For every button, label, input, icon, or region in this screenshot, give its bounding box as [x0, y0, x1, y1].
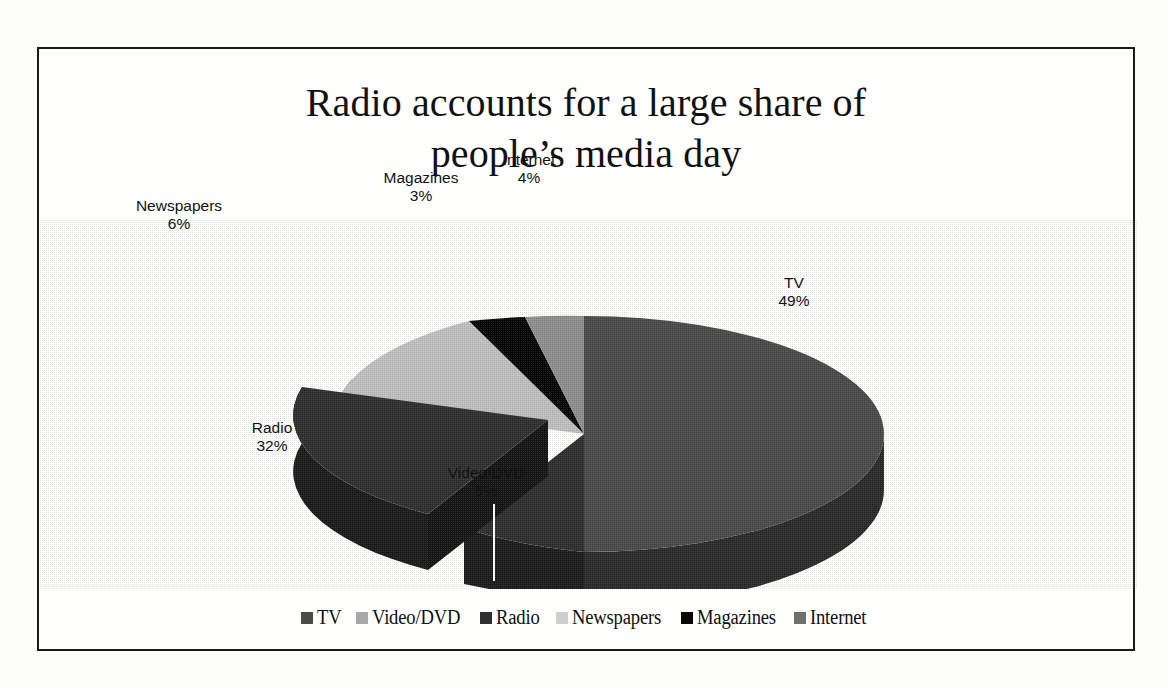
pie-chart-graphic — [39, 219, 1137, 589]
legend-item-radio[interactable]: Radio — [480, 606, 543, 629]
slice-label-tv: TV 49% — [739, 274, 849, 309]
legend-swatch-tv-icon — [301, 612, 313, 624]
slice-label-internet-name: Internet — [469, 151, 589, 169]
chart-frame: Radio accounts for a large share of peop… — [37, 47, 1135, 651]
legend-label-internet: Internet — [810, 606, 866, 629]
legend-label-magazines: Magazines — [697, 606, 776, 629]
legend-label-radio: Radio — [496, 606, 540, 629]
legend-swatch-magazines-icon — [681, 612, 693, 624]
slice-label-tv-value: 49% — [739, 292, 849, 310]
slice-label-radio-name: Radio — [217, 419, 327, 437]
slice-label-video-name: Video/DVD — [416, 464, 556, 482]
legend-label-newspapers: Newspapers — [572, 606, 661, 629]
slice-label-internet-value: 4% — [469, 169, 589, 187]
slice-label-newspapers-value: 6% — [99, 215, 259, 233]
slice-label-video-value: 6% — [416, 482, 556, 500]
legend-swatch-video-icon — [356, 612, 368, 624]
chart-title-line-1: Radio accounts for a large share of — [39, 77, 1133, 128]
chart-legend: TV Video/DVD Radio Newspapers Magazines — [39, 606, 1133, 629]
slice-label-internet: Internet 4% — [469, 151, 589, 186]
pie-plot-area: TV 49% Video/DVD 6% Radio 32% Newspapers… — [39, 219, 1133, 589]
legend-label-video: Video/DVD — [372, 606, 460, 629]
slice-label-radio-value: 32% — [217, 437, 327, 455]
slice-label-newspapers-name: Newspapers — [99, 197, 259, 215]
slice-label-tv-name: TV — [739, 274, 849, 292]
legend-item-newspapers[interactable]: Newspapers — [556, 606, 668, 629]
legend-item-video[interactable]: Video/DVD — [356, 606, 467, 629]
legend-swatch-radio-icon — [480, 612, 492, 624]
legend-item-internet[interactable]: Internet — [794, 606, 871, 629]
slice-label-magazines-value: 3% — [351, 187, 491, 205]
legend-label-tv: TV — [317, 606, 341, 629]
legend-item-magazines[interactable]: Magazines — [681, 606, 782, 629]
legend-swatch-newspapers-icon — [556, 612, 568, 624]
legend-swatch-internet-icon — [794, 612, 806, 624]
slice-label-radio: Radio 32% — [217, 419, 327, 454]
slice-label-video: Video/DVD 6% — [416, 464, 556, 499]
pie-texture-overlay — [39, 219, 1137, 589]
legend-item-tv[interactable]: TV — [301, 606, 343, 629]
page-canvas: Radio accounts for a large share of peop… — [0, 0, 1169, 688]
slice-label-newspapers: Newspapers 6% — [99, 197, 259, 232]
